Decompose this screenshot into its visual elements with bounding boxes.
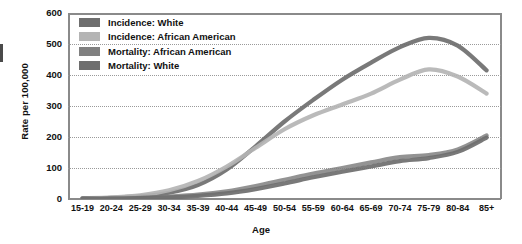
legend-label: Incidence: African American: [108, 31, 236, 42]
legend-label: Mortality: African American: [108, 46, 231, 57]
x-axis-title: Age: [0, 224, 522, 235]
legend-item: Mortality: White: [79, 60, 236, 71]
y-axis-tick-label: 300: [32, 100, 62, 111]
y-axis-tick-label: 500: [32, 38, 62, 49]
y-axis-title: Rate per 100,000: [19, 47, 30, 157]
legend-item: Mortality: African American: [79, 46, 236, 57]
series-line: [82, 138, 486, 199]
series-line: [82, 135, 486, 198]
y-axis-tick-label: 100: [32, 162, 62, 173]
y-axis-tick-label: 200: [32, 131, 62, 142]
legend-item: Incidence: African American: [79, 31, 236, 42]
y-axis-tick-label: 400: [32, 69, 62, 80]
legend-swatch-icon: [79, 18, 100, 27]
legend-swatch-icon: [79, 47, 100, 56]
x-axis-tick-label: 85+: [465, 203, 509, 213]
legend-swatch-icon: [79, 32, 100, 41]
y-axis-tick-label: 0: [32, 193, 62, 204]
legend-item: Incidence: White: [79, 17, 236, 28]
page-edge-artifact: [0, 44, 3, 62]
legend-label: Incidence: White: [108, 17, 183, 28]
legend-label: Mortality: White: [108, 60, 179, 71]
y-axis-tick-label: 600: [32, 7, 62, 18]
chart-legend: Incidence: WhiteIncidence: African Ameri…: [79, 17, 236, 71]
legend-swatch-icon: [79, 61, 100, 70]
chart-container: Rate per 100,000 0100200300400500600 15-…: [0, 0, 522, 244]
